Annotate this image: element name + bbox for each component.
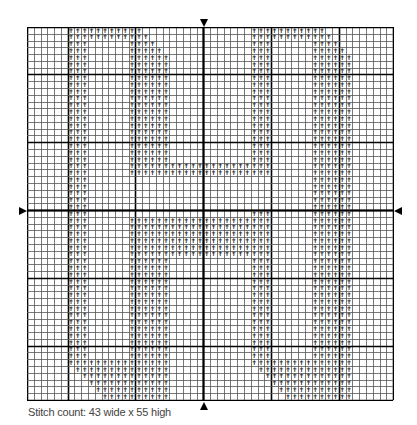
svg-text:✝: ✝ xyxy=(156,169,161,177)
svg-text:✝: ✝ xyxy=(285,393,290,401)
svg-text:✝: ✝ xyxy=(150,393,155,401)
svg-text:✝: ✝ xyxy=(258,169,263,177)
cross-stitch-chart: ✝✝✝✝✝✝✝✝✝✝✝✝✝✝✝✝✝✝✝✝✝✝✝✝✝✝✝✝✝✝✝✝✝✝✝✝✝✝✝✝… xyxy=(27,27,394,401)
svg-text:✝: ✝ xyxy=(143,393,148,401)
center-row-arrow-right-icon xyxy=(394,207,402,215)
svg-text:✝: ✝ xyxy=(326,393,331,401)
svg-text:✝: ✝ xyxy=(306,393,311,401)
svg-text:✝: ✝ xyxy=(177,169,182,177)
svg-text:✝: ✝ xyxy=(265,169,270,177)
svg-text:✝: ✝ xyxy=(129,169,134,177)
svg-text:✝: ✝ xyxy=(251,359,256,367)
svg-text:✝: ✝ xyxy=(292,393,297,401)
svg-text:✝: ✝ xyxy=(184,169,189,177)
svg-text:✝: ✝ xyxy=(238,169,243,177)
svg-text:✝: ✝ xyxy=(333,393,338,401)
center-column-arrow-top-icon xyxy=(200,19,208,27)
svg-text:✝: ✝ xyxy=(170,169,175,177)
svg-text:✝: ✝ xyxy=(129,393,134,401)
svg-text:✝: ✝ xyxy=(312,393,317,401)
svg-text:✝: ✝ xyxy=(279,386,284,394)
svg-text:✝: ✝ xyxy=(231,169,236,177)
svg-text:✝: ✝ xyxy=(163,393,168,401)
svg-text:✝: ✝ xyxy=(340,393,345,401)
svg-text:✝: ✝ xyxy=(143,169,148,177)
svg-text:✝: ✝ xyxy=(319,393,324,401)
svg-text:✝: ✝ xyxy=(136,169,141,177)
center-column-arrow-bottom-icon xyxy=(200,402,208,410)
svg-text:✝: ✝ xyxy=(95,386,100,394)
svg-text:✝: ✝ xyxy=(136,393,141,401)
svg-text:✝: ✝ xyxy=(218,169,223,177)
svg-text:✝: ✝ xyxy=(224,169,229,177)
svg-text:✝: ✝ xyxy=(123,393,128,401)
stitch-grid: ✝✝✝✝✝✝✝✝✝✝✝✝✝✝✝✝✝✝✝✝✝✝✝✝✝✝✝✝✝✝✝✝✝✝✝✝✝✝✝✝… xyxy=(27,27,394,401)
svg-text:✝: ✝ xyxy=(150,169,155,177)
svg-text:✝: ✝ xyxy=(299,393,304,401)
stitch-count-caption: Stitch count: 43 wide x 55 high xyxy=(28,406,171,418)
svg-text:✝: ✝ xyxy=(211,169,216,177)
svg-text:✝: ✝ xyxy=(197,169,202,177)
svg-text:✝: ✝ xyxy=(116,393,121,401)
svg-text:✝: ✝ xyxy=(156,393,161,401)
svg-text:✝: ✝ xyxy=(251,169,256,177)
svg-text:✝: ✝ xyxy=(204,169,209,177)
svg-text:✝: ✝ xyxy=(163,169,168,177)
svg-text:✝: ✝ xyxy=(109,393,114,401)
stitch-symbols: ✝✝✝✝✝✝✝✝✝✝✝✝✝✝✝✝✝✝✝✝✝✝✝✝✝✝✝✝✝✝✝✝✝✝✝✝✝✝✝✝… xyxy=(68,27,351,401)
svg-text:✝: ✝ xyxy=(190,169,195,177)
center-row-arrow-left-icon xyxy=(19,207,27,215)
svg-text:✝: ✝ xyxy=(346,393,351,401)
svg-text:✝: ✝ xyxy=(102,393,107,401)
svg-text:✝: ✝ xyxy=(245,169,250,177)
